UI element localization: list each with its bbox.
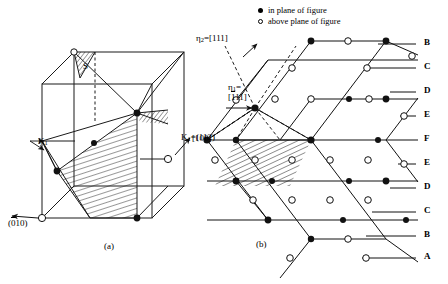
legend-label-in-plane: in plane of figure: [268, 6, 327, 15]
legend: in plane of figure above plane of figure: [258, 5, 340, 27]
row-label-E-bottom: E: [424, 158, 430, 167]
legend-item-above-plane: above plane of figure: [258, 16, 340, 27]
cube-label-K1: K1: [38, 137, 48, 147]
projection-K1-eq: =(112): [191, 132, 215, 142]
row-label-C-bottom: C: [424, 206, 431, 215]
panel-caption-a: (a): [104, 242, 114, 251]
open-circle-icon: [258, 19, 263, 24]
cube-label-K1-sub: 1: [45, 139, 48, 146]
eta1-eq: =: [236, 82, 241, 92]
cube-k1-plane-shading: [57, 113, 137, 218]
row-tick-lines: [362, 44, 416, 258]
row-label-E-top: E: [424, 110, 430, 119]
figure-root: in plane of figure above plane of figure…: [0, 0, 448, 284]
eta2-arrow: [243, 44, 257, 57]
eta2-eq: =[111]: [204, 33, 228, 43]
projection-shear-shading: [215, 140, 311, 186]
projection-label-K1: K1=(112): [181, 133, 215, 143]
row-label-A: A: [424, 252, 431, 261]
eta1-bracket-rest: 11]: [235, 92, 247, 102]
eta1-line2: [111]: [228, 93, 247, 102]
projection-label-eta2: η2=[111]: [196, 34, 228, 44]
row-label-B-bottom: B: [424, 230, 430, 239]
legend-item-in-plane: in plane of figure: [258, 5, 340, 16]
projection-label-eta1: η1= [111]: [228, 83, 247, 103]
filled-circle-icon: [258, 8, 263, 13]
row-label-B-top: B: [424, 38, 430, 47]
panel-caption-b: (b): [256, 240, 267, 249]
row-label-F: F: [424, 134, 430, 143]
row-label-C-top: C: [424, 62, 431, 71]
legend-label-above-plane: above plane of figure: [268, 17, 340, 26]
cube-label-S: S: [83, 62, 88, 71]
bracket-rest: 10): [16, 218, 28, 228]
row-label-D-bottom: D: [424, 182, 431, 191]
projection-diagram: [203, 38, 418, 278]
row-label-D-top: D: [424, 86, 431, 95]
cube-label-dir-0bar10: (010): [8, 219, 28, 228]
